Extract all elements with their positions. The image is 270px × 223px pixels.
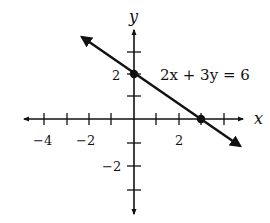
y-intercept-point [130, 70, 138, 78]
y-tick-label-neg2: −2 [102, 159, 121, 174]
y-axis-label: y [128, 7, 139, 26]
x-axis-label: x [254, 109, 263, 128]
x-tick-label-neg4: −4 [33, 133, 52, 148]
y-tick-label-2: 2 [112, 68, 120, 83]
equation-line [82, 37, 240, 146]
x-intercept-point [197, 115, 205, 123]
x-tick-label-neg2: −2 [76, 133, 95, 148]
x-tick-label-2: 2 [175, 133, 183, 148]
coordinate-plane: y x 2x + 3y = 6 −4 −2 2 2 −2 [0, 0, 270, 223]
equation-label: 2x + 3y = 6 [160, 66, 250, 84]
